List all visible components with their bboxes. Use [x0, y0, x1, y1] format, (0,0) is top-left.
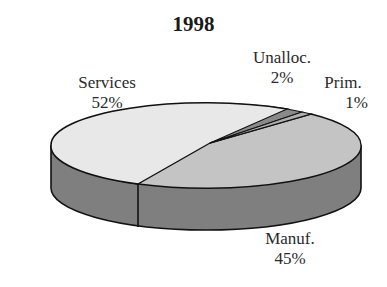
label-prim: Prim. 1%: [318, 73, 368, 113]
label-services: Services 52%: [62, 73, 152, 113]
label-unalloc: Unalloc. 2%: [247, 48, 317, 88]
label-manuf: Manuf. 45%: [255, 229, 325, 269]
pie-chart-3d: [0, 0, 387, 287]
